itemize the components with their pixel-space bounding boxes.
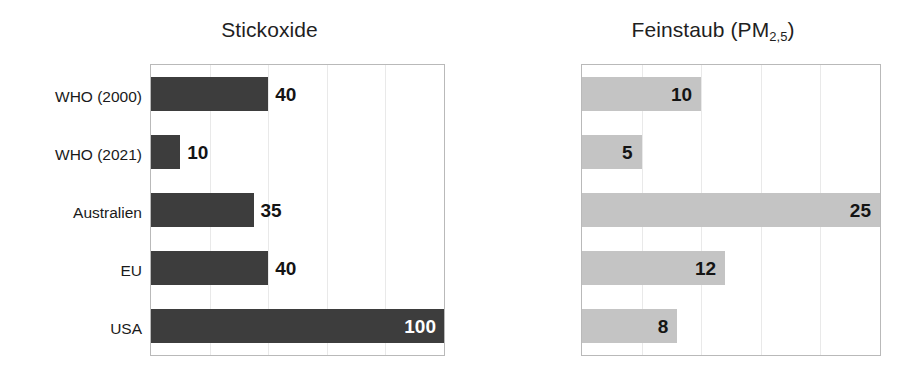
bar-row-eu: 25	[582, 181, 880, 239]
chart-title-tail: )	[787, 18, 794, 41]
bar-australien: 8	[582, 309, 677, 343]
chart-title-text: Stickoxide	[221, 18, 318, 41]
bar-who-2000: 40	[151, 77, 268, 111]
bar-row-australien: 8	[582, 297, 880, 355]
bar-value-who-2021: 5	[622, 143, 633, 162]
bar-row-who-2005: 10	[582, 65, 880, 123]
bar-who-2021: 5	[582, 135, 642, 169]
bar-row-usa: 100	[151, 297, 444, 355]
chart-title-stickoxide: Stickoxide	[0, 18, 455, 42]
bar-value-eu: 40	[275, 259, 296, 278]
bar-eu: 40	[151, 251, 268, 285]
bar-row-australien: 35	[151, 181, 444, 239]
bar-value-who-2000: 40	[275, 85, 296, 104]
bar-row-who-2021: 10	[151, 123, 444, 181]
category-label-eu: EU	[120, 263, 142, 279]
bar-usa: 100	[151, 309, 444, 343]
bar-australien: 35	[151, 193, 254, 227]
category-label-who-2021: WHO (2021)	[55, 147, 142, 163]
bar-who-2021: 10	[151, 135, 180, 169]
bar-value-usa: 12	[695, 259, 716, 278]
chart-panel-stickoxide: Stickoxide WHO (2000) WHO (2021) Austral…	[0, 0, 455, 374]
category-label-usa: USA	[110, 321, 142, 337]
bars-stickoxide: 40 10 35 40	[151, 65, 444, 355]
bar-row-who-2021: 5	[582, 123, 880, 181]
category-axis-stickoxide: WHO (2000) WHO (2021) Australien EU USA	[6, 64, 142, 356]
chart-screenshot: Stickoxide WHO (2000) WHO (2021) Austral…	[0, 0, 911, 374]
bar-eu: 25	[582, 193, 880, 227]
plot-area-stickoxide: 40 10 35 40	[150, 64, 445, 356]
bar-row-eu: 40	[151, 239, 444, 297]
bar-value-australien: 35	[261, 201, 282, 220]
chart-panel-feinstaub: Feinstaub (PM2,5) WHO (2005) WHO (2021) …	[455, 0, 911, 374]
bar-value-eu: 25	[850, 201, 871, 220]
bar-row-usa: 12	[582, 239, 880, 297]
bar-usa: 12	[582, 251, 725, 285]
chart-title-feinstaub: Feinstaub (PM2,5)	[455, 18, 911, 42]
chart-title-subscript: 2,5	[769, 29, 787, 44]
category-label-australien: Australien	[73, 205, 142, 221]
plot-area-feinstaub: 10 5 25 12	[581, 64, 881, 356]
category-label-who-2000: WHO (2000)	[55, 89, 142, 105]
bars-feinstaub: 10 5 25 12	[582, 65, 880, 355]
bar-who-2005: 10	[582, 77, 701, 111]
bar-value-who-2021: 10	[187, 143, 208, 162]
chart-title-text: Feinstaub (PM	[631, 18, 769, 41]
bar-row-who-2000: 40	[151, 65, 444, 123]
bar-value-australien: 8	[658, 317, 669, 336]
bar-value-usa: 100	[404, 317, 436, 336]
bar-value-who-2005: 10	[671, 85, 692, 104]
